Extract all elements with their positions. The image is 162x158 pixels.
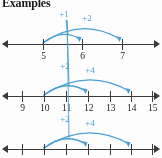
axis-tick xyxy=(110,144,111,155)
axis-arrow-right-icon xyxy=(154,92,160,100)
axis-tick-label: 12 xyxy=(84,103,94,113)
axis-tick-label: 9 xyxy=(20,103,25,113)
examples-number-line-figure: Examples +1+2567+2+49101112131415+2+4 xyxy=(0,0,162,158)
axis-tick xyxy=(66,91,67,102)
axis-tick xyxy=(131,144,132,155)
axis-tick xyxy=(122,39,123,50)
axis-tick-label: 11 xyxy=(62,103,71,113)
axis-tick xyxy=(44,144,45,155)
arc-value-label: +4 xyxy=(85,118,95,128)
axis-tick xyxy=(22,91,23,102)
axis-arrow-left-icon xyxy=(2,40,8,48)
axis-line xyxy=(6,96,156,97)
axis-tick xyxy=(43,39,44,50)
number-line-1-axis: 567 xyxy=(0,36,162,54)
axis-tick-label: 13 xyxy=(106,103,116,113)
axis-arrow-left-icon xyxy=(2,145,8,153)
axis-line xyxy=(6,149,156,150)
axis-tick-label: 7 xyxy=(120,51,125,61)
axis-tick-label: 10 xyxy=(40,103,50,113)
axis-tick-label: 6 xyxy=(80,51,85,61)
arc-value-label: +4 xyxy=(85,65,95,75)
arc-value-label: +2 xyxy=(82,13,92,23)
arc-value-label: +2 xyxy=(60,61,70,71)
axis-tick-label: 5 xyxy=(41,51,46,61)
axis-tick xyxy=(152,91,153,102)
axis-arrow-right-icon xyxy=(154,145,160,153)
axis-tick-label: 15 xyxy=(148,103,158,113)
arc-value-label: +2 xyxy=(60,114,70,124)
axis-tick xyxy=(22,144,23,155)
axis-tick xyxy=(88,91,89,102)
axis-tick xyxy=(82,39,83,50)
axis-tick xyxy=(88,144,89,155)
axis-arrow-left-icon xyxy=(2,92,8,100)
number-line-2-axis: 9101112131415 xyxy=(0,88,162,106)
axis-tick xyxy=(131,91,132,102)
axis-tick xyxy=(66,144,67,155)
arc-value-label: +1 xyxy=(59,9,69,19)
axis-line xyxy=(6,44,156,45)
axis-arrow-right-icon xyxy=(154,40,160,48)
number-line-3-axis xyxy=(0,141,162,158)
axis-tick-label: 14 xyxy=(127,103,137,113)
axis-tick xyxy=(110,91,111,102)
axis-tick xyxy=(152,144,153,155)
axis-tick xyxy=(44,91,45,102)
